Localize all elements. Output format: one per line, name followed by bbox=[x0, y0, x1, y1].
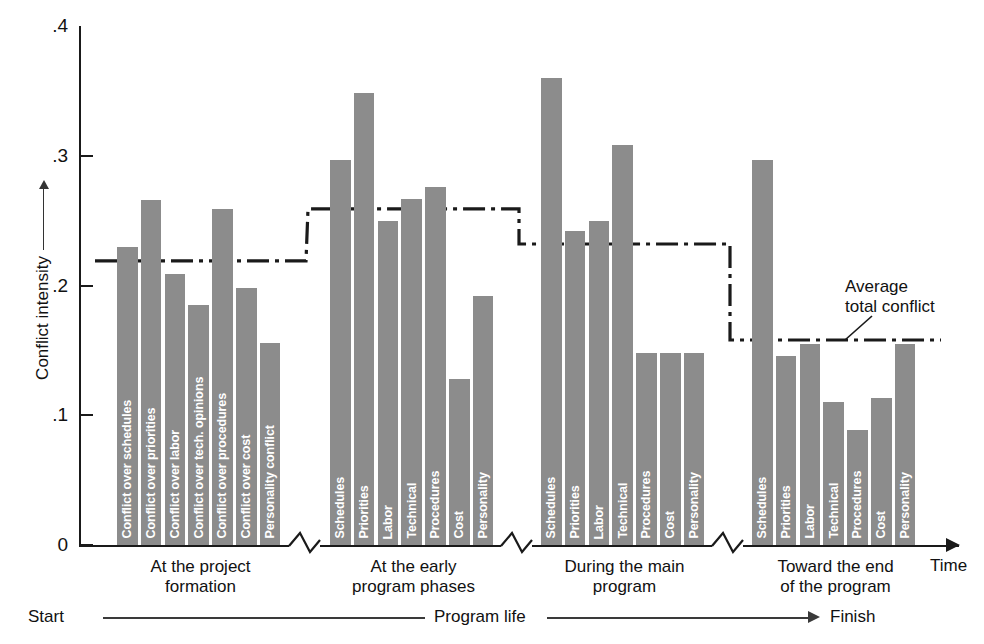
x-axis-line bbox=[79, 545, 959, 547]
bar: Conflict over labor bbox=[165, 274, 186, 545]
bar-label: Schedules bbox=[545, 477, 558, 539]
timeline-start-label: Start bbox=[28, 607, 64, 627]
annotation-leader-line bbox=[845, 316, 872, 340]
bar: Personality conflict bbox=[260, 343, 281, 545]
timeline-line-left bbox=[103, 617, 425, 619]
group-label-line-2: program phases bbox=[304, 577, 524, 597]
group-label: Toward the endof the program bbox=[726, 557, 946, 597]
bar: Technical bbox=[401, 199, 422, 545]
bar: Schedules bbox=[330, 160, 351, 545]
timeline-line-right bbox=[547, 617, 809, 619]
group-label: During the mainprogram bbox=[515, 557, 735, 597]
bar-label: Personality bbox=[688, 473, 701, 539]
y-axis-tick-label: 0 bbox=[28, 535, 68, 554]
bar: Conflict over cost bbox=[236, 288, 257, 545]
bar: Procedures bbox=[847, 430, 868, 545]
y-axis-tick bbox=[81, 285, 93, 287]
bar-label: Priorities bbox=[780, 486, 793, 539]
timeline-middle-label: Program life bbox=[434, 607, 526, 627]
bar: Cost bbox=[871, 398, 892, 545]
bar-label: Conflict over cost bbox=[240, 435, 253, 539]
annotation-line-1: Average bbox=[845, 277, 935, 297]
y-axis-tick-label: .1 bbox=[28, 405, 68, 424]
bar-label: Conflict over priorities bbox=[145, 408, 158, 539]
bar-label: Cost bbox=[664, 512, 677, 539]
bar: Schedules bbox=[752, 160, 773, 545]
group-label-line-1: At the early bbox=[304, 557, 524, 577]
bar: Technical bbox=[823, 402, 844, 545]
bar-label: Conflict over labor bbox=[169, 430, 182, 539]
bar-label: Procedures bbox=[429, 471, 442, 539]
bar: Cost bbox=[449, 379, 470, 545]
group-label-line-1: During the main bbox=[515, 557, 735, 577]
bar-label: Procedures bbox=[640, 471, 653, 539]
bar: Procedures bbox=[425, 187, 446, 545]
bar-label: Cost bbox=[875, 512, 888, 539]
bar-label: Labor bbox=[382, 505, 395, 539]
group-label-line-2: of the program bbox=[726, 577, 946, 597]
bar-label: Conflict over procedures bbox=[216, 393, 229, 539]
y-axis-tick bbox=[81, 544, 93, 546]
group-label-line-1: Toward the end bbox=[726, 557, 946, 577]
bar: Priorities bbox=[565, 231, 586, 545]
group-label-line-2: program bbox=[515, 577, 735, 597]
bar-label: Schedules bbox=[334, 477, 347, 539]
bar: Procedures bbox=[636, 353, 657, 545]
bar-label: Technical bbox=[405, 483, 418, 539]
bar: Priorities bbox=[354, 93, 375, 545]
bar: Priorities bbox=[776, 356, 797, 545]
annotation-average-total-conflict: Average total conflict bbox=[845, 277, 935, 317]
bar: Conflict over procedures bbox=[212, 209, 233, 545]
bar-label: Schedules bbox=[756, 477, 769, 539]
bar: Personality bbox=[895, 344, 916, 545]
bar-label: Conflict over schedules bbox=[121, 400, 134, 539]
bar: Schedules bbox=[541, 78, 562, 545]
bar-label: Personality bbox=[899, 473, 912, 539]
timeline-arrow-icon bbox=[808, 611, 820, 623]
bar: Conflict over priorities bbox=[141, 200, 162, 545]
y-axis-tick bbox=[81, 155, 93, 157]
x-axis-arrow-icon bbox=[946, 538, 960, 552]
bar: Technical bbox=[612, 145, 633, 545]
y-axis-line bbox=[79, 26, 81, 547]
bar: Labor bbox=[800, 344, 821, 545]
bar: Cost bbox=[660, 353, 681, 545]
timeline-end-label: Finish bbox=[830, 607, 875, 627]
bar-label: Labor bbox=[804, 505, 817, 539]
up-arrow-icon bbox=[39, 180, 49, 250]
bar-label: Cost bbox=[453, 512, 466, 539]
axis-break-mark bbox=[501, 533, 532, 552]
bar-label: Technical bbox=[616, 483, 629, 539]
y-axis-tick-label: .4 bbox=[28, 16, 68, 35]
group-label-line-1: At the project bbox=[91, 557, 311, 577]
bar: Conflict over tech. opinions bbox=[188, 305, 209, 545]
bar-label: Technical bbox=[827, 483, 840, 539]
bar-label: Priorities bbox=[358, 486, 371, 539]
axis-break-mark bbox=[712, 533, 743, 552]
group-label: At the projectformation bbox=[91, 557, 311, 597]
chart-figure: Time Conflict intensity .4.3.2.10 Confli… bbox=[0, 0, 984, 644]
bar-label: Conflict over tech. opinions bbox=[192, 377, 205, 539]
axis-break-mark bbox=[289, 533, 320, 552]
group-label: At the earlyprogram phases bbox=[304, 557, 524, 597]
annotation-line-2: total conflict bbox=[845, 297, 935, 317]
bar: Personality bbox=[473, 296, 494, 545]
y-axis-tick-label: .3 bbox=[28, 146, 68, 165]
y-axis-tick-label: .2 bbox=[28, 276, 68, 295]
bar-label: Priorities bbox=[569, 486, 582, 539]
bar: Labor bbox=[589, 221, 610, 545]
bar-label: Personality bbox=[477, 473, 490, 539]
y-axis-tick bbox=[81, 414, 93, 416]
bar: Conflict over schedules bbox=[117, 247, 138, 545]
group-label-line-2: formation bbox=[91, 577, 311, 597]
bar-label: Personality conflict bbox=[264, 426, 277, 539]
bar-label: Labor bbox=[593, 505, 606, 539]
bar: Personality bbox=[684, 353, 705, 545]
bar: Labor bbox=[378, 221, 399, 545]
bar-label: Procedures bbox=[851, 471, 864, 539]
